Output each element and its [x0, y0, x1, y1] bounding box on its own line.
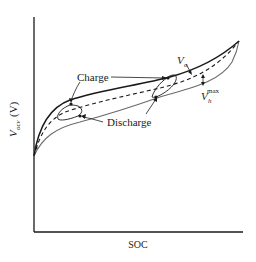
x-axis-label: SOC — [128, 239, 148, 250]
charge-label: Charge — [77, 71, 109, 83]
y-axis-label-sub: ocv — [14, 119, 22, 130]
vo-label-sub: o — [184, 61, 188, 69]
charge-leader-right — [111, 77, 165, 78]
vh-arrowhead-up — [201, 74, 205, 78]
discharge-leader-left — [83, 117, 103, 122]
curve-start-point — [35, 147, 38, 150]
vh-label-sup: max — [207, 87, 220, 95]
vh-label-sub: h — [208, 97, 212, 105]
discharge-label: Discharge — [107, 116, 152, 128]
y-axis-label: V ocv (V) — [7, 101, 22, 137]
discharge-arrowhead-left — [81, 114, 86, 119]
minor-loop-left — [58, 105, 82, 120]
y-axis-label-unit: (V) — [7, 101, 20, 117]
minor-loops — [35, 75, 177, 149]
vh-max-label: V h max — [201, 87, 220, 105]
hysteresis-diagram: Charge Discharge SOC V ocv (V) V o V h m… — [0, 0, 256, 262]
labels: Charge Discharge SOC V ocv (V) V o V h m… — [7, 54, 220, 250]
vo-label: V o — [177, 54, 188, 69]
